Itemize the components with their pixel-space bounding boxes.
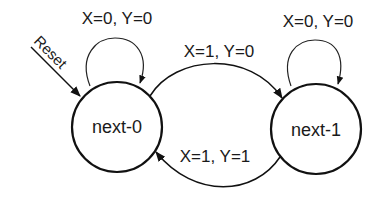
transition-next-0-to-next-1-label: X=1, Y=0 [184,42,255,61]
state-diagram: Reset X=0, Y=0 X=0, Y=0 X=1, Y=0 X=1, Y=… [0,0,381,203]
self-loop-next-0-label: X=0, Y=0 [82,9,153,28]
state-next-0-label: next-0 [92,117,142,137]
self-loop-next-1-label: X=0, Y=0 [283,12,354,31]
self-loop-next-1 [288,40,341,86]
transition-next-1-to-next-0-label: X=1, Y=1 [180,147,251,166]
self-loop-next-0 [86,38,143,86]
transition-next-0-to-next-1 [150,64,282,98]
state-next-1-label: next-1 [291,120,341,140]
state-next-1: next-1 [271,84,361,174]
state-next-0: next-0 [72,82,162,172]
